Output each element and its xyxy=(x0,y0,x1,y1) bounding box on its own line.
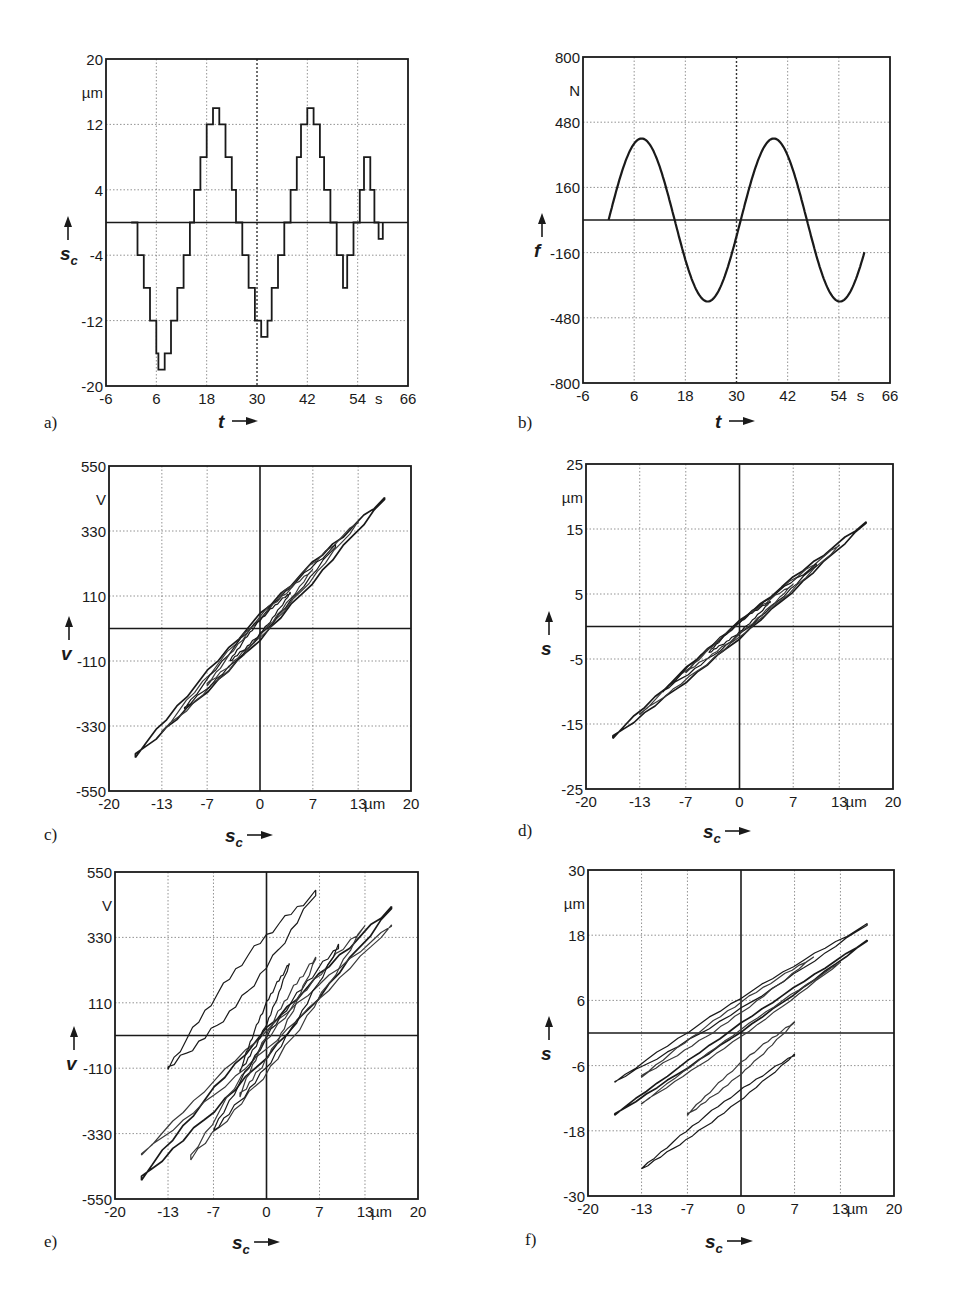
y-tick-label: -6 xyxy=(572,1058,585,1075)
x-unit-label: s xyxy=(375,390,383,407)
y-tick-label: -330 xyxy=(76,718,106,735)
y-tick-labels: -25-15-551525 xyxy=(561,456,583,798)
y-tick-label: -110 xyxy=(83,1060,112,1077)
x-axis-label: sc xyxy=(232,1232,280,1257)
y-axis-label: v xyxy=(66,1026,78,1074)
arrow-head-icon xyxy=(70,1026,78,1037)
x-tick-label: 30 xyxy=(249,390,266,407)
x-unit-label: s xyxy=(857,387,865,404)
svg-text:v: v xyxy=(66,1053,78,1074)
y-tick-labels: -800-480-160160480800 xyxy=(550,49,580,392)
x-tick-label: 7 xyxy=(790,1200,798,1217)
chart-panel-c: -550-330-110110330550V-20-13-7071320µmsc… xyxy=(44,458,419,850)
x-tick-label: -13 xyxy=(157,1203,179,1220)
x-tick-label: -20 xyxy=(575,793,597,810)
x-tick-label: -20 xyxy=(104,1203,126,1220)
hysteresis-loop xyxy=(168,890,316,1070)
arrow-head-icon xyxy=(64,216,72,227)
hysteresis-loop xyxy=(240,957,316,1097)
y-axis-label: s xyxy=(541,611,553,659)
arrow-head-icon xyxy=(246,417,258,425)
svg-text:t: t xyxy=(218,411,225,432)
panel-label: b) xyxy=(518,413,532,432)
svg-text:sc: sc xyxy=(705,1231,724,1256)
svg-text:f: f xyxy=(534,240,542,261)
svg-text:sc: sc xyxy=(60,243,79,268)
x-tick-label: 18 xyxy=(677,387,694,404)
y-unit-label: V xyxy=(96,491,106,508)
x-unit-label: µm xyxy=(364,795,385,812)
y-unit-label: V xyxy=(102,897,112,914)
x-tick-label: -20 xyxy=(98,795,120,812)
y-tick-label: 12 xyxy=(86,116,103,133)
y-axis-label: v xyxy=(61,616,73,664)
x-tick-label: 54 xyxy=(830,387,847,404)
x-tick-label: 66 xyxy=(882,387,899,404)
x-tick-label: 20 xyxy=(886,1200,903,1217)
y-tick-label: 25 xyxy=(566,456,583,473)
x-tick-label: 7 xyxy=(789,793,797,810)
panel-label: a) xyxy=(44,413,57,432)
x-tick-label: -7 xyxy=(200,795,213,812)
panel-label: d) xyxy=(518,821,532,840)
y-tick-labels: -550-330-110110330550 xyxy=(82,864,112,1208)
chart-panel-e: -550-330-110110330550V-20-13-7071320µmsc… xyxy=(44,864,426,1257)
y-tick-label: 110 xyxy=(88,995,112,1012)
svg-text:sc: sc xyxy=(232,1232,251,1257)
arrow-head-icon xyxy=(743,417,755,425)
arrow-head-icon xyxy=(538,213,546,224)
y-tick-label: 550 xyxy=(87,864,112,881)
y-tick-labels: -30-18-661830 xyxy=(563,862,585,1205)
x-tick-label: -20 xyxy=(577,1200,599,1217)
x-tick-label: 18 xyxy=(198,390,215,407)
x-axis-label: t xyxy=(218,411,258,432)
y-tick-label: -330 xyxy=(82,1126,112,1143)
x-tick-label: -13 xyxy=(629,793,651,810)
x-tick-label: 54 xyxy=(349,390,366,407)
x-axis-label: sc xyxy=(705,1231,753,1256)
y-tick-label: 110 xyxy=(82,588,106,605)
y-unit-label: N xyxy=(569,82,580,99)
y-tick-label: 4 xyxy=(95,182,103,199)
y-tick-label: 18 xyxy=(568,927,585,944)
y-tick-label: 330 xyxy=(87,929,112,946)
hysteresis-loop xyxy=(642,1054,795,1169)
y-tick-label: -18 xyxy=(563,1123,585,1140)
figure-canvas: -20-12-441220µm-661830425466stsca)-800-4… xyxy=(0,0,953,1290)
x-tick-label: -13 xyxy=(151,795,173,812)
panel-label: e) xyxy=(44,1232,57,1251)
x-axis-label: sc xyxy=(703,821,751,846)
y-tick-label: -110 xyxy=(77,653,106,670)
x-tick-label: 66 xyxy=(400,390,417,407)
chart-panel-b: -800-480-160160480800N-661830425466stfb) xyxy=(518,49,898,432)
x-tick-label: 30 xyxy=(728,387,745,404)
y-axis-label: sc xyxy=(60,216,79,268)
x-tick-label: -6 xyxy=(99,390,112,407)
y-tick-label: 800 xyxy=(555,49,580,66)
arrow-head-icon xyxy=(545,1016,553,1027)
panel-label: c) xyxy=(44,825,57,844)
hysteresis-loop xyxy=(240,963,289,1072)
y-axis-label: s xyxy=(541,1016,553,1064)
x-tick-label: -13 xyxy=(631,1200,653,1217)
y-tick-label: 30 xyxy=(568,862,585,879)
y-tick-label: -4 xyxy=(90,247,103,264)
y-unit-label: µm xyxy=(564,895,585,912)
y-tick-label: 20 xyxy=(86,51,103,68)
y-tick-labels: -20-12-441220 xyxy=(81,51,103,395)
x-tick-label: -7 xyxy=(679,793,692,810)
svg-text:s: s xyxy=(541,638,552,659)
x-tick-label: 6 xyxy=(630,387,638,404)
x-unit-label: µm xyxy=(847,1200,868,1217)
y-tick-label: 160 xyxy=(555,179,580,196)
y-tick-label: -5 xyxy=(570,651,583,668)
arrow-head-icon xyxy=(65,616,73,627)
x-unit-label: µm xyxy=(371,1203,392,1220)
y-tick-label: -480 xyxy=(550,310,580,327)
y-tick-label: 550 xyxy=(81,458,106,475)
y-tick-label: 6 xyxy=(577,992,585,1009)
x-tick-label: 7 xyxy=(315,1203,323,1220)
x-tick-label: -7 xyxy=(681,1200,694,1217)
arrow-head-icon xyxy=(261,831,273,839)
x-tick-label: -6 xyxy=(576,387,589,404)
